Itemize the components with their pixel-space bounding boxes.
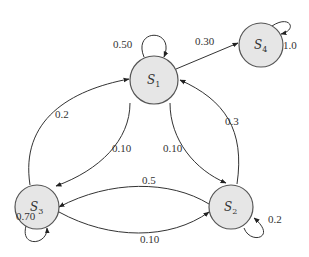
edge-s1-s1: [142, 35, 166, 57]
markov-chain-diagram: S1 S4 S3 S2 0.50 0.30 1.0 0.2 0.10 0.10 …: [0, 0, 309, 257]
node-s1: S1: [130, 56, 178, 104]
label-s1-s4: 0.30: [195, 35, 215, 47]
edge-s2-s3: [59, 186, 209, 207]
label-s4-s4: 1.0: [283, 39, 297, 51]
label-s3-s1: 0.2: [55, 108, 69, 120]
label-s3-s3: 0.70: [16, 210, 36, 222]
label-s2-s1: 0.3: [225, 115, 239, 127]
label-s2-s3: 0.5: [142, 174, 156, 186]
label-s1-s1: 0.50: [113, 38, 133, 50]
edge-s2-s1: [180, 80, 239, 184]
edge-s3-s2: [59, 212, 209, 233]
label-s1-s2: 0.10: [163, 142, 183, 154]
label-s1-s3: 0.10: [112, 142, 132, 154]
label-s3-s2: 0.10: [140, 233, 160, 245]
node-s2: S2: [209, 185, 253, 229]
node-s4: S4: [239, 23, 283, 67]
node-s3: S3: [15, 185, 59, 229]
edge-s3-s1: [29, 79, 129, 185]
label-s2-s2: 0.2: [268, 213, 282, 225]
